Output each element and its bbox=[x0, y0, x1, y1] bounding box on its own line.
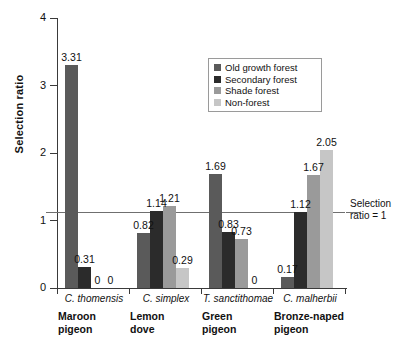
y-tick-label: 4 bbox=[20, 11, 46, 23]
group-common-name-line-2: dove bbox=[130, 323, 202, 336]
y-tick-label: 0 bbox=[20, 281, 46, 293]
group-common-name-line-1: Maroon bbox=[58, 310, 130, 323]
group-scientific-name: C. thomensis bbox=[58, 293, 130, 304]
group-scientific-name: C. malherbii bbox=[274, 293, 346, 304]
y-tick-label: 2 bbox=[20, 146, 46, 158]
group-scientific-name: T. sanctithomae bbox=[202, 293, 274, 304]
bar-value-label: 0.82 bbox=[129, 219, 159, 231]
legend-item-label: Shade forest bbox=[225, 85, 279, 96]
y-tick-mark bbox=[50, 85, 58, 86]
reference-line-label: Selection ratio = 1 bbox=[350, 198, 401, 222]
y-tick-mark bbox=[50, 153, 58, 154]
group-common-name: Bronze-napedpigeon bbox=[274, 310, 346, 335]
bar-value-label: 0 bbox=[240, 274, 270, 286]
reference-label-line-1: Selection bbox=[350, 198, 401, 210]
group-common-name-line-2: pigeon bbox=[274, 323, 346, 336]
group-scientific-name: C. simplex bbox=[130, 293, 202, 304]
bar-value-label: 1.67 bbox=[299, 161, 329, 173]
bar bbox=[281, 277, 294, 288]
legend-swatch-icon bbox=[214, 64, 221, 71]
group-common-name: Lemondove bbox=[130, 310, 202, 335]
group-common-name-line-1: Green bbox=[202, 310, 274, 323]
group-common-name-line-2: pigeon bbox=[58, 323, 130, 336]
legend-swatch-icon bbox=[214, 87, 221, 94]
bar-value-label: 1.69 bbox=[201, 160, 231, 172]
legend-item: Secondary forest bbox=[214, 74, 317, 86]
bar bbox=[209, 174, 222, 288]
bar bbox=[137, 233, 150, 288]
bar-value-label: 0 bbox=[96, 274, 126, 286]
group-common-name: Maroonpigeon bbox=[58, 310, 130, 335]
bar-value-label: 0.29 bbox=[168, 254, 198, 266]
bar-value-label: 1.21 bbox=[155, 192, 185, 204]
legend-swatch-icon bbox=[214, 99, 221, 106]
bar-value-label: 0.31 bbox=[70, 253, 100, 265]
bar-value-label: 0.17 bbox=[273, 263, 303, 275]
y-tick-mark bbox=[50, 18, 58, 19]
legend-item: Non-forest bbox=[214, 97, 317, 109]
group-common-name: Greenpigeon bbox=[202, 310, 274, 335]
legend-swatch-icon bbox=[214, 76, 221, 83]
bar-value-label: 0.73 bbox=[227, 225, 257, 237]
bar bbox=[163, 206, 176, 288]
group-common-name-line-2: pigeon bbox=[202, 323, 274, 336]
group-common-name-line-1: Bronze-naped bbox=[274, 310, 346, 323]
bar-value-label: 2.05 bbox=[312, 136, 342, 148]
bar bbox=[222, 232, 235, 288]
y-tick-mark bbox=[50, 220, 58, 221]
reference-label-line-2: ratio = 1 bbox=[350, 210, 401, 222]
legend-item: Old growth forest bbox=[214, 62, 317, 74]
legend-item-label: Old growth forest bbox=[225, 62, 297, 73]
y-tick-label: 3 bbox=[20, 79, 46, 91]
bar bbox=[307, 175, 320, 288]
legend-item: Shade forest bbox=[214, 85, 317, 97]
group-common-name-line-1: Lemon bbox=[130, 310, 202, 323]
bar bbox=[176, 268, 189, 288]
bar bbox=[294, 212, 307, 288]
y-tick-label: 1 bbox=[20, 214, 46, 226]
legend: Old growth forestSecondary forestShade f… bbox=[208, 58, 322, 112]
legend-item-label: Non-forest bbox=[225, 97, 269, 108]
selection-ratio-bar-chart: Selection ratio 43210 Selection ratio = … bbox=[0, 0, 401, 346]
legend-items: Old growth forestSecondary forestShade f… bbox=[214, 62, 317, 108]
bar-value-label: 1.12 bbox=[286, 198, 316, 210]
bar-value-label: 3.31 bbox=[57, 51, 87, 63]
legend-item-label: Secondary forest bbox=[225, 74, 297, 85]
